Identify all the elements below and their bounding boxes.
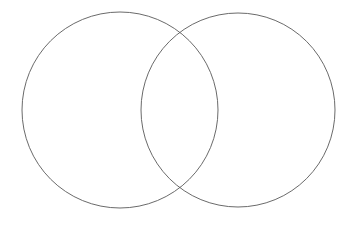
venn-diagram-canvas: [0, 0, 356, 227]
venn-diagram-svg: [0, 0, 356, 227]
